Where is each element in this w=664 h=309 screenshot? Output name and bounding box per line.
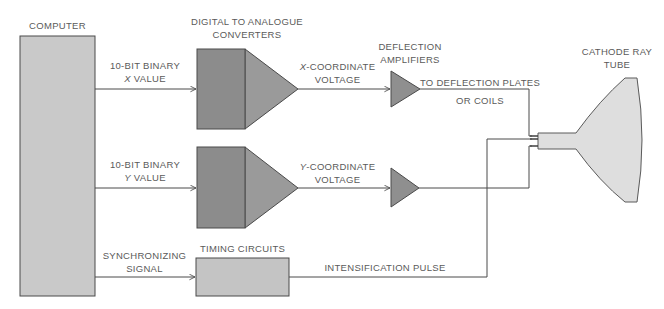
intensification-label: INTENSIFICATION PULSE — [310, 262, 460, 275]
dac-x-block — [197, 49, 298, 129]
computer-block — [20, 36, 95, 296]
y-binary-line2: Y VALUE — [100, 172, 190, 185]
timing-label: TIMING CIRCUITS — [190, 243, 295, 256]
y-voltage-label: Y-COORDINATE VOLTAGE — [285, 161, 390, 186]
crt-label-line2: TUBE — [572, 59, 662, 72]
x-voltage-rest: -COORDINATE — [306, 61, 375, 72]
dac-y-block — [197, 147, 298, 228]
crt-display-block-diagram: COMPUTER DIGITAL TO ANALOGUE CONVERTERS … — [0, 0, 664, 309]
crt-label-line1: CATHODE RAY — [572, 46, 662, 59]
computer-label: COMPUTER — [20, 20, 95, 33]
sync-line2: SIGNAL — [97, 263, 192, 276]
timing-circuits-block — [196, 258, 289, 296]
wire-y-deflection — [419, 146, 532, 188]
x-voltage-line2: VOLTAGE — [285, 74, 390, 87]
x-binary-label: 10-BIT BINARY X VALUE — [100, 60, 190, 85]
y-binary-line1: 10-BIT BINARY — [100, 159, 190, 172]
wire-intensification — [289, 139, 532, 277]
y-binary-label: 10-BIT BINARY Y VALUE — [100, 159, 190, 184]
y-voltage-line1: Y-COORDINATE — [285, 161, 390, 174]
y-voltage-rest: -COORDINATE — [306, 161, 375, 172]
amplifier-y-triangle — [391, 168, 419, 207]
dac-label: DIGITAL TO ANALOGUE CONVERTERS — [172, 16, 322, 41]
deflection-output-line2: OR COILS — [415, 92, 545, 110]
x-voltage-label: X-COORDINATE VOLTAGE — [285, 61, 390, 86]
sync-line1: SYNCHRONIZING — [97, 250, 192, 263]
x-var: X — [124, 73, 131, 84]
x-binary-line1: 10-BIT BINARY — [100, 60, 190, 73]
x-binary-rest: VALUE — [131, 73, 166, 84]
deflection-output-line1: TO DEFLECTION PLATES — [415, 74, 545, 92]
dac-label-line2: CONVERTERS — [172, 29, 322, 42]
y-binary-rest: VALUE — [131, 172, 166, 183]
y-voltage-line2: VOLTAGE — [285, 174, 390, 187]
x-voltage-line1: X-COORDINATE — [285, 61, 390, 74]
y-var: Y — [124, 172, 131, 183]
amplifiers-label-line1: DEFLECTION — [370, 41, 450, 54]
deflection-output-label: TO DEFLECTION PLATES OR COILS — [415, 74, 545, 110]
cathode-ray-tube — [530, 78, 642, 202]
crt-label: CATHODE RAY TUBE — [572, 46, 662, 71]
x-binary-line2: X VALUE — [100, 73, 190, 86]
dac-label-line1: DIGITAL TO ANALOGUE — [172, 16, 322, 29]
sync-label: SYNCHRONIZING SIGNAL — [97, 250, 192, 275]
